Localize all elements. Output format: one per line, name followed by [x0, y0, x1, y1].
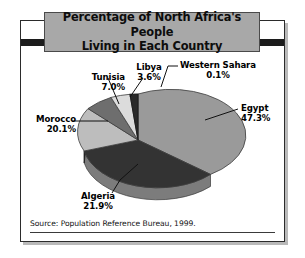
pie-label-western-sahara-name: Western Sahara — [180, 60, 256, 70]
pie-label-tunisia-name: Tunisia — [92, 72, 125, 82]
pie-label-egypt-name: Egypt — [241, 103, 268, 113]
chart-figure: Percentage of North Africa's People Livi… — [0, 0, 305, 258]
source-divider — [30, 232, 275, 233]
pie-label-western-sahara: Western Sahara 0.1% — [178, 60, 258, 80]
page-title: Percentage of North Africa's People Livi… — [45, 10, 259, 54]
pie-label-morocco-value: 20.1% — [20, 124, 76, 134]
pie-label-algeria-name: Algeria — [81, 191, 115, 201]
chart-title-box: Percentage of North Africa's People Livi… — [44, 12, 260, 52]
pie-label-tunisia: Tunisia 7.0% — [67, 72, 125, 92]
chart-title-line-1: Percentage of North Africa's People — [63, 10, 241, 39]
pie-label-egypt: Egypt 47.3% — [241, 103, 285, 123]
pie-label-egypt-value: 47.3% — [241, 113, 285, 123]
title-bar-right-accent — [258, 39, 284, 46]
pie-label-western-sahara-value: 0.1% — [178, 70, 258, 80]
pie-label-algeria-value: 21.9% — [70, 201, 126, 211]
source-note: Source: Population Reference Bureau, 199… — [30, 219, 270, 228]
pie-label-morocco-name: Morocco — [36, 114, 76, 124]
pie-label-algeria: Algeria 21.9% — [70, 191, 126, 211]
pie-label-libya-name: Libya — [136, 62, 161, 72]
pie-top-face — [78, 89, 246, 187]
pie-label-tunisia-value: 7.0% — [67, 82, 125, 92]
pie-chart-plot-area: Tunisia 7.0% Libya 3.6% Western Sahara 0… — [20, 52, 285, 217]
pie-label-libya-value: 3.6% — [127, 72, 171, 82]
pie-label-morocco: Morocco 20.1% — [20, 114, 76, 134]
pie-label-libya: Libya 3.6% — [127, 62, 171, 82]
